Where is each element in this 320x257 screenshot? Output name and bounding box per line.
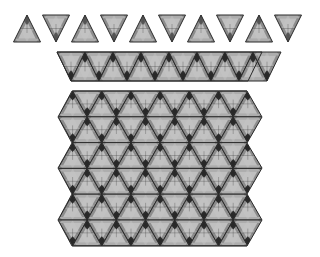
tile-base-band <box>157 78 182 81</box>
triangle-tile <box>275 15 302 42</box>
tile-base-band <box>129 78 154 81</box>
tile-base-band <box>227 52 252 55</box>
tile-base-band <box>143 52 168 55</box>
tile-base-band <box>73 78 98 81</box>
triangle-tile <box>43 15 70 42</box>
tile-base-band <box>115 52 140 55</box>
tile-base-band <box>87 52 112 55</box>
triangle-tile <box>188 15 215 42</box>
triangle-tile <box>130 15 157 42</box>
triangle-tile <box>159 15 186 42</box>
separate-tiles-row <box>14 15 302 42</box>
tile-base-band <box>59 52 84 55</box>
triangle-tiling-diagram <box>0 0 320 257</box>
joined-strip <box>57 52 281 81</box>
tile-base-band <box>213 78 238 81</box>
tile-base-band <box>185 78 210 81</box>
tile-base-band <box>101 78 126 81</box>
tile-base-band <box>171 52 196 55</box>
tile-base-band <box>255 52 280 55</box>
triangle-tile <box>14 15 41 42</box>
triangle-tile <box>72 15 99 42</box>
tile-base-band <box>199 52 224 55</box>
triangle-tile <box>101 15 128 42</box>
tile-base-band <box>241 78 266 81</box>
block-bottom-mask <box>0 247 320 257</box>
triangle-tile <box>217 15 244 42</box>
triangle-tile <box>246 15 273 42</box>
tessellated-block <box>0 86 320 257</box>
